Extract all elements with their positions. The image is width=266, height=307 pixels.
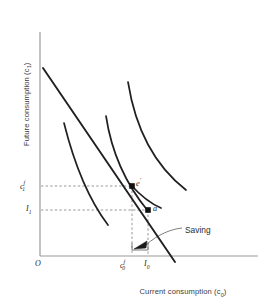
x-axis-title-close: )	[224, 287, 227, 296]
indifference-curve-3	[128, 82, 186, 190]
point-label-e-prime: e′	[136, 177, 141, 188]
x-tick-label-c0f: cf0	[120, 259, 125, 271]
y-axis-title-close: )	[22, 63, 31, 66]
x-axis-title: Current consumption (c0)	[108, 287, 258, 298]
y-axis-title-base: Future consumption (c	[22, 68, 31, 146]
y-tick-label-i1: I1	[26, 204, 31, 215]
point-marker-e-prime	[129, 183, 135, 189]
y-axis-title: Future consumption (c1)	[22, 28, 33, 180]
point-label-a: a	[153, 204, 157, 213]
saving-annotation-label: Saving	[185, 225, 211, 235]
figure-container: Future consumption (c1) Current consumpt…	[0, 0, 266, 307]
point-marker-a	[145, 207, 151, 213]
x-axis-title-base: Current consumption (c	[140, 287, 221, 296]
x-tick-c0f-sub: 0	[122, 265, 125, 271]
origin-label: O	[35, 259, 41, 268]
y-tick-i1-sub: 1	[29, 209, 32, 215]
x-tick-label-i0: I0	[144, 259, 149, 270]
y-tick-label-c1f: cf1	[20, 180, 25, 192]
x-tick-i0-sub: 0	[147, 264, 150, 270]
saving-arrowhead-icon	[134, 241, 147, 249]
y-tick-c1f-sub: 1	[22, 186, 25, 192]
budget-line	[43, 68, 175, 262]
y-axis-title-sub: 1	[26, 65, 32, 68]
saving-arrow	[146, 228, 182, 245]
